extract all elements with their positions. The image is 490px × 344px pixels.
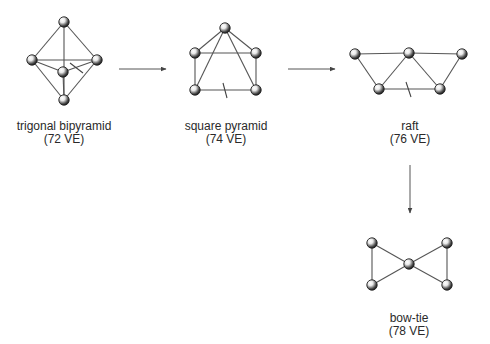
broken-bond-markers xyxy=(70,63,411,98)
label-bow-tie: bow-tie (78 VE) xyxy=(389,312,430,338)
bond-line xyxy=(355,54,379,89)
atom-sphere xyxy=(350,49,360,59)
bond-line xyxy=(195,28,225,53)
atom-sphere xyxy=(59,17,69,27)
structure-trigonal-bipyramid xyxy=(32,22,97,100)
atom-sphere xyxy=(404,48,414,58)
bond-line xyxy=(409,243,447,264)
bond-line xyxy=(409,53,462,54)
bond-line xyxy=(372,264,409,285)
bond-line xyxy=(409,264,447,285)
broken-bond-slash xyxy=(70,63,83,73)
atom-sphere xyxy=(190,48,200,58)
atom-sphere xyxy=(59,95,69,105)
valence-electron-count: (78 VE) xyxy=(389,325,430,338)
bond-line xyxy=(225,28,256,53)
label-raft: raft (76 VE) xyxy=(390,120,431,146)
atom-sphere xyxy=(251,48,261,58)
atom-sphere xyxy=(367,238,377,248)
atom-sphere xyxy=(27,55,37,65)
atom-sphere xyxy=(435,84,445,94)
bond-line xyxy=(379,53,409,89)
atom-sphere xyxy=(367,280,377,290)
valence-electron-count: (76 VE) xyxy=(390,133,431,146)
valence-electron-count: (72 VE) xyxy=(17,133,112,146)
atom-sphere xyxy=(404,259,414,269)
bond-line xyxy=(195,28,225,90)
atom-sphere xyxy=(442,280,452,290)
bond-line xyxy=(440,54,462,89)
atom-sphere xyxy=(457,49,467,59)
bond-line xyxy=(32,22,64,60)
atom-sphere xyxy=(92,55,102,65)
atom-sphere xyxy=(58,67,68,77)
bond-line xyxy=(64,22,97,60)
bond-line xyxy=(409,53,440,89)
cluster-diagram xyxy=(0,0,490,344)
bond-line xyxy=(355,53,409,54)
label-trigonal-bipyramid: trigonal bipyramid (72 VE) xyxy=(17,120,112,146)
atom-sphere xyxy=(220,23,230,33)
metal-atoms xyxy=(27,17,467,290)
atom-sphere xyxy=(190,85,200,95)
atom-sphere xyxy=(374,84,384,94)
valence-electron-count: (74 VE) xyxy=(185,133,268,146)
label-square-pyramid: square pyramid (74 VE) xyxy=(185,120,268,146)
atom-sphere xyxy=(251,85,261,95)
bond-line xyxy=(372,243,409,264)
structure-square-pyramid xyxy=(195,28,256,90)
bond-line xyxy=(225,28,256,90)
atom-sphere xyxy=(442,238,452,248)
